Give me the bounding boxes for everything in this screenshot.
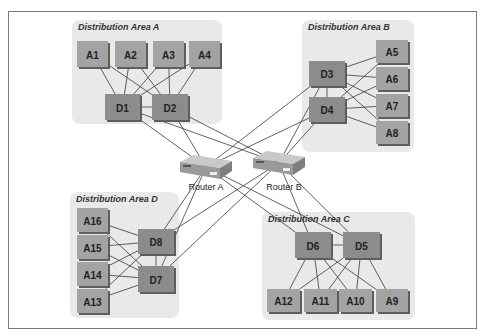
- router-label: Router A: [188, 182, 223, 192]
- node-label: A14: [83, 270, 102, 281]
- access-node-a15[interactable]: A15: [77, 235, 110, 261]
- node-label: D2: [164, 103, 177, 114]
- node-label: A3: [162, 50, 175, 61]
- access-node-a1[interactable]: A1: [77, 41, 110, 69]
- access-node-a6[interactable]: A6: [376, 67, 410, 92]
- node-label: A11: [312, 296, 330, 307]
- network-diagram: Distribution Area ADistribution Area BDi…: [0, 0, 485, 336]
- node-label: A2: [124, 50, 137, 61]
- access-node-a16[interactable]: A16: [77, 208, 110, 234]
- access-node-a8[interactable]: A8: [376, 121, 410, 146]
- distribution-node-d5[interactable]: D5: [343, 232, 382, 260]
- distribution-node-d2[interactable]: D2: [152, 94, 190, 122]
- node-label: D3: [321, 69, 334, 80]
- node-label: A13: [83, 297, 102, 308]
- router-label: Router B: [266, 182, 302, 192]
- node-label: D4: [321, 105, 334, 116]
- access-node-a2[interactable]: A2: [115, 41, 148, 69]
- distribution-node-d6[interactable]: D6: [295, 232, 333, 260]
- access-node-a3[interactable]: A3: [153, 41, 186, 69]
- area-title: Distribution Area A: [78, 22, 159, 32]
- node-label: D8: [150, 237, 163, 248]
- node-label: A5: [386, 47, 399, 58]
- access-node-a14[interactable]: A14: [77, 262, 110, 288]
- node-label: A7: [386, 101, 399, 112]
- distribution-node-d4[interactable]: D4: [309, 97, 347, 124]
- node-label: D1: [116, 103, 129, 114]
- node-label: A6: [386, 74, 399, 85]
- access-node-a10[interactable]: A10: [339, 289, 374, 314]
- node-label: A4: [198, 50, 211, 61]
- distribution-area-a: Distribution Area A: [72, 20, 222, 124]
- node-label: A15: [83, 243, 102, 254]
- distribution-node-d8[interactable]: D8: [138, 229, 176, 256]
- node-label: A1: [86, 50, 99, 61]
- area-background: [72, 20, 222, 124]
- node-label: A12: [274, 296, 293, 307]
- access-node-a7[interactable]: A7: [376, 94, 410, 119]
- distribution-node-d3[interactable]: D3: [309, 61, 347, 88]
- access-node-a13[interactable]: A13: [77, 289, 110, 315]
- node-label: D5: [355, 241, 368, 252]
- node-label: A16: [83, 216, 102, 227]
- distribution-node-d7[interactable]: D7: [138, 266, 176, 294]
- access-node-a9[interactable]: A9: [376, 289, 410, 314]
- distribution-node-d1[interactable]: D1: [105, 94, 142, 122]
- node-label: A9: [386, 296, 399, 307]
- access-node-a4[interactable]: A4: [189, 41, 222, 69]
- access-node-a5[interactable]: A5: [376, 40, 410, 65]
- node-label: D7: [150, 275, 163, 286]
- node-label: A8: [386, 128, 399, 139]
- area-title: Distribution Area D: [76, 194, 158, 204]
- area-title: Distribution Area B: [308, 22, 390, 32]
- access-node-a12[interactable]: A12: [267, 289, 302, 314]
- node-label: A10: [346, 296, 365, 307]
- node-label: D6: [307, 241, 320, 252]
- access-node-a11[interactable]: A11: [304, 289, 339, 314]
